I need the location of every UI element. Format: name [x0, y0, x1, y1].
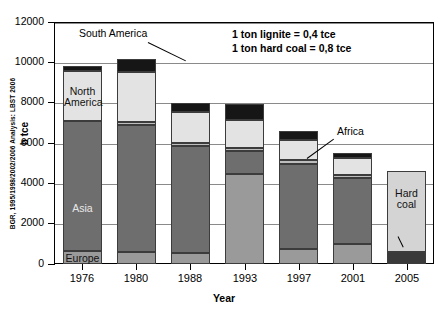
bar-1997[interactable]: [279, 22, 318, 264]
x-tick-label-1988: 1988: [160, 272, 220, 284]
x-tick-label-2005: 2005: [377, 272, 437, 284]
y-tick-label-6000: 6000: [0, 137, 44, 147]
bar-segment-1988-north-america[interactable]: [171, 112, 210, 143]
y-tick-12000: [48, 22, 55, 23]
segment-label-asia: Asia: [64, 203, 101, 214]
bar-segment-1997-europe[interactable]: [279, 249, 318, 264]
x-axis-title: Year: [0, 292, 448, 304]
y-tick-6000: [48, 143, 55, 144]
bar-1980[interactable]: [117, 22, 156, 264]
y-axis-title: b tce: [19, 104, 30, 164]
coal-reserves-chart: BGR, 1995/1998/2002/2006 Analysis: LBST …: [0, 0, 448, 316]
x-tick-label-1993: 1993: [215, 272, 275, 284]
segment-label-europe: Europe: [64, 253, 101, 264]
x-tick-label-1976: 1976: [52, 272, 112, 284]
bar-1976[interactable]: EuropeAsiaNorthAmerica: [63, 22, 102, 264]
conversion-note-line-2: 1 ton hard coal = 0,8 tce: [232, 41, 351, 55]
bar-segment-2005-hard-coal[interactable]: Hardcoal: [387, 171, 426, 252]
bar-segment-2001-asia[interactable]: [333, 178, 372, 244]
bar-segment-1993-australia[interactable]: [225, 148, 264, 151]
bar-1988[interactable]: [171, 22, 210, 264]
bar-segment-1976-south-america-africa[interactable]: [63, 66, 102, 72]
y-tick-label-10000: 10000: [0, 56, 44, 66]
bar-segment-1980-europe[interactable]: [117, 252, 156, 265]
bar-segment-1997-north-america[interactable]: [279, 140, 318, 160]
bar-segment-2001-australia[interactable]: [333, 175, 372, 177]
bar-segment-1976-europe[interactable]: Europe: [63, 251, 102, 264]
bar-segment-1988-south-america-africa[interactable]: [171, 103, 210, 112]
bar-segment-1988-asia[interactable]: [171, 146, 210, 253]
bar-segment-1980-south-america-africa[interactable]: [117, 59, 156, 72]
conversion-note-line-1: 1 ton lignite = 0,4 tce: [232, 27, 351, 41]
conversion-note: 1 ton lignite = 0,4 tce 1 ton hard coal …: [232, 27, 351, 55]
y-tick-2000: [48, 223, 55, 224]
x-tick-label-2001: 2001: [323, 272, 383, 284]
bar-segment-1993-south-america-africa[interactable]: [225, 104, 264, 120]
y-tick-label-8000: 8000: [0, 96, 44, 106]
bar-segment-1988-europe[interactable]: [171, 253, 210, 264]
y-tick-label-4000: 4000: [0, 177, 44, 187]
bar-segment-2001-south-america-africa[interactable]: [333, 153, 372, 157]
x-tick-1993: [245, 264, 246, 270]
y-tick-label-2000: 2000: [0, 217, 44, 227]
x-tick-label-1980: 1980: [106, 272, 166, 284]
y-tick-label-0: 0: [0, 258, 44, 268]
y-tick-label-12000: 12000: [0, 16, 44, 26]
x-tick-1988: [190, 264, 191, 270]
y-tick-0: [48, 264, 55, 265]
x-tick-label-1997: 1997: [269, 272, 329, 284]
segment-label-hard-coal: Hardcoal: [388, 188, 425, 210]
y-tick-8000: [48, 102, 55, 103]
x-tick-1976: [82, 264, 83, 270]
bar-segment-1997-asia[interactable]: [279, 164, 318, 250]
bar-segment-1993-north-america[interactable]: [225, 120, 264, 148]
x-tick-1980: [136, 264, 137, 270]
bar-segment-1993-asia[interactable]: [225, 151, 264, 174]
bar-segment-1980-australia[interactable]: [117, 122, 156, 124]
y-tick-4000: [48, 183, 55, 184]
bar-segment-1980-asia[interactable]: [117, 125, 156, 252]
bar-segment-1993-europe[interactable]: [225, 174, 264, 264]
bar-segment-1997-south-america-africa[interactable]: [279, 131, 318, 140]
bar-segment-1976-north-america[interactable]: NorthAmerica: [63, 71, 102, 120]
bar-2001[interactable]: [333, 22, 372, 264]
x-tick-2001: [353, 264, 354, 270]
bar-segment-1976-asia[interactable]: Asia: [63, 121, 102, 251]
bar-1993[interactable]: [225, 22, 264, 264]
segment-label-north-america: NorthAmerica: [64, 86, 101, 108]
bar-segment-1988-australia[interactable]: [171, 143, 210, 146]
bar-segment-2001-europe[interactable]: [333, 244, 372, 264]
x-tick-2005: [407, 264, 408, 270]
bar-segment-2001-north-america[interactable]: [333, 158, 372, 176]
bar-segment-1980-north-america[interactable]: [117, 72, 156, 123]
bar-segment-2005-lignite[interactable]: lignite: [387, 252, 426, 264]
bar-segment-1997-australia[interactable]: [279, 160, 318, 164]
callout-south-america: South America: [78, 28, 148, 40]
y-tick-10000: [48, 62, 55, 63]
bar-2005[interactable]: ligniteHardcoal: [387, 22, 426, 264]
callout-africa: Africa: [336, 126, 365, 138]
x-tick-1997: [299, 264, 300, 270]
